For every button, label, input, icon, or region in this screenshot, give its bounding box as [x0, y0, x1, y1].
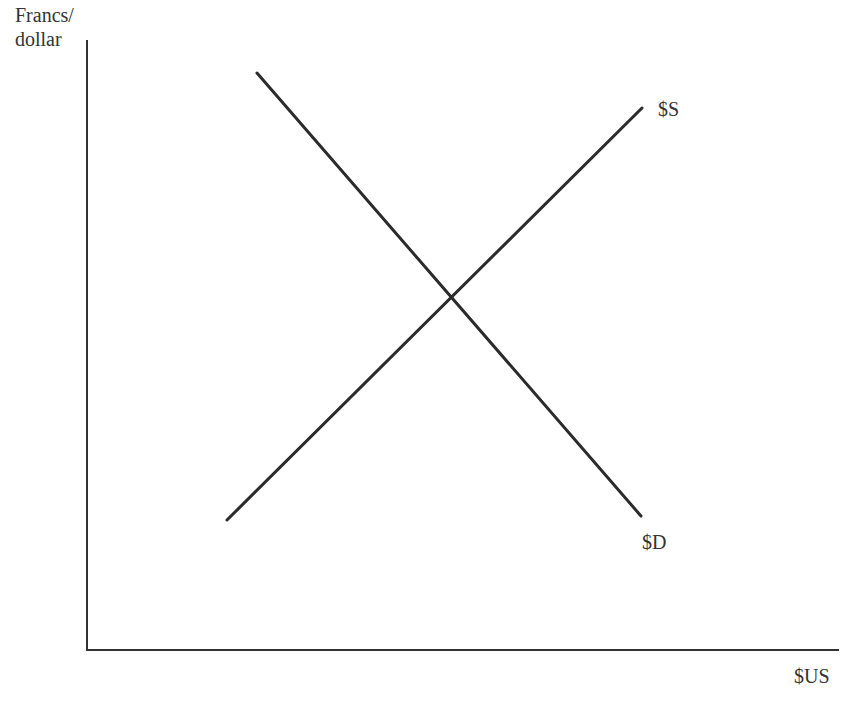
x-axis-label: $US	[794, 664, 830, 688]
chart-canvas	[0, 0, 862, 708]
demand-curve-label: $D	[642, 530, 666, 554]
supply-curve	[227, 108, 642, 520]
supply-demand-chart: Francs/ dollar $S $D $US	[0, 0, 862, 708]
demand-curve	[257, 73, 641, 516]
y-axis-label: Francs/ dollar	[15, 3, 74, 51]
supply-curve-label: $S	[658, 97, 679, 121]
y-axis-label-line2: dollar	[15, 27, 74, 51]
y-axis-label-line1: Francs/	[15, 3, 74, 27]
